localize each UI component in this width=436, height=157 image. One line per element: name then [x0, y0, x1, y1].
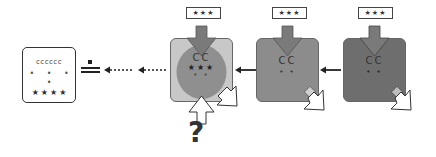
equivalence-icon — [80, 60, 102, 76]
stage-3-graphics — [343, 26, 423, 126]
stage-1-input-label: ★★★ — [186, 7, 221, 19]
dotted-arrow-left-icon-2 — [138, 67, 168, 74]
stage-2-cc: CC — [256, 55, 319, 66]
stage-2-input-label: ★★★ — [272, 7, 307, 19]
output-arrow-diagonal-icon — [391, 86, 411, 110]
document-box: cccccc • • • • ★★★★ — [22, 47, 76, 103]
stage-2-dots: • • — [256, 68, 319, 76]
dotted-arrow-left-icon — [104, 67, 134, 74]
input-arrow-down-icon — [273, 26, 302, 56]
stage-3-cc: CC — [343, 55, 406, 66]
stage-1-dots: • • — [170, 71, 233, 79]
document-line-dots: • • • • — [23, 69, 75, 87]
dotted-arrows — [104, 64, 168, 76]
output-arrow-diagonal-icon — [304, 86, 324, 110]
question-mark: ? — [188, 116, 204, 149]
solid-arrow-left-icon-2 — [320, 65, 342, 75]
stage-1-cc: CC — [170, 52, 233, 63]
document-line-c: cccccc — [23, 58, 75, 66]
stage-2-graphics — [256, 26, 336, 126]
stage-3-input-label: ★★★ — [358, 7, 393, 19]
document-line-stars: ★★★★ — [23, 88, 75, 97]
solid-arrow-left-icon — [235, 65, 257, 75]
input-arrow-down-icon — [360, 26, 389, 56]
stage-3-dots: • • — [343, 68, 406, 76]
